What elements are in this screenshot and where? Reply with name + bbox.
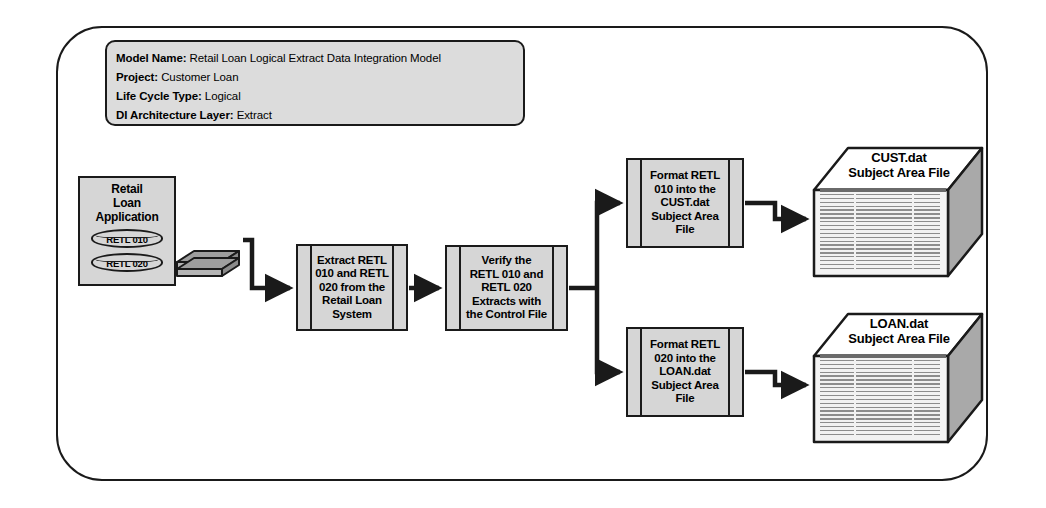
process-verify-extracts-with-control-file: Verify the RETL 010 and RETL 020 Extract… [445,245,568,331]
datastore-retl-020-label: RETL 020 [106,258,148,269]
source-system-retail-loan-application: Retail Loan Application RETL 010 RETL 02… [78,176,176,286]
process-extract-retl-from-retail-loan-system: Extract RETL 010 and RETL 020 from the R… [296,244,408,331]
process-format-loan-line-5: File [650,392,720,406]
info-label-life-cycle-type: Life Cycle Type: [116,90,202,102]
process-format-loan-label: Format RETL 020 into the LOAN.dat Subjec… [635,338,735,406]
process-extract-line-1: Extract RETL [315,254,389,268]
process-format-loan-line-2: 020 into the [650,352,720,366]
process-verify-line-2: RETL 010 and [466,268,547,282]
info-row-model-name: Model Name: Retail Loan Logical Extract … [116,49,523,68]
process-format-cust-line-2: 010 into the [650,183,720,197]
info-value-model-name: Retail Loan Logical Extract Data Integra… [190,52,441,64]
info-label-project: Project: [116,71,158,83]
process-format-cust-label: Format RETL 010 into the CUST.dat Subjec… [635,169,735,237]
file-box-table-header [820,354,946,358]
file-box-table-header [820,188,946,192]
info-value-project: Customer Loan [161,71,238,83]
source-system-title: Retail Loan Application [95,182,158,224]
process-format-loan-line-3: LOAN.dat [650,365,720,379]
source-title-line-3: Application [95,210,158,224]
process-extract-label: Extract RETL 010 and RETL 020 from the R… [300,254,404,322]
process-format-cust-line-4: Subject Area [650,210,720,224]
process-verify-line-4: Extracts with [466,295,547,309]
datastore-retl-010-label: RETL 010 [106,234,148,245]
info-value-life-cycle-type: Logical [205,90,241,102]
info-row-di-architecture-layer: DI Architecture Layer: Extract [116,106,523,125]
datastore-retl-010: RETL 010 [91,229,163,248]
diagram-canvas: Model Name: Retail Loan Logical Extract … [0,0,1046,508]
process-format-loan-line-4: Subject Area [650,379,720,393]
datastore-retl-020: RETL 020 [91,253,163,272]
process-format-cust-line-3: CUST.dat [650,196,720,210]
file-box-table-rows [820,193,946,271]
source-datastore-list: RETL 010 RETL 020 [91,229,163,272]
process-format-cust-line-5: File [650,223,720,237]
process-format-loan-line-1: Format RETL [650,338,720,352]
process-format-retl-010-into-cust-dat: Format RETL 010 into the CUST.dat Subjec… [626,158,744,248]
output-file-loan-dat: LOAN.dat Subject Area File [812,312,984,444]
process-extract-line-2: 010 and RETL [315,267,389,281]
process-extract-line-3: 020 from the [315,281,389,295]
output-file-cust-dat: CUST.dat Subject Area File [812,146,984,278]
process-verify-line-5: the Control File [466,308,547,322]
process-verify-line-3: RETL 020 [466,281,547,295]
process-verify-line-1: Verify the [466,254,547,268]
process-format-retl-020-into-loan-dat: Format RETL 020 into the LOAN.dat Subjec… [626,327,744,417]
process-extract-line-5: System [315,308,389,322]
info-row-project: Project: Customer Loan [116,68,523,87]
model-info-panel: Model Name: Retail Loan Logical Extract … [105,40,525,126]
process-extract-line-4: Retail Loan [315,294,389,308]
info-label-model-name: Model Name: [116,52,186,64]
source-title-line-2: Loan [95,196,158,210]
process-format-cust-line-1: Format RETL [650,169,720,183]
file-box-table-rows [820,359,946,437]
info-value-di-architecture-layer: Extract [237,109,272,121]
process-verify-label: Verify the RETL 010 and RETL 020 Extract… [451,254,562,322]
source-title-line-1: Retail [95,182,158,196]
info-label-di-architecture-layer: DI Architecture Layer: [116,109,234,121]
stacked-disk-icon [176,228,250,280]
info-row-life-cycle-type: Life Cycle Type: Logical [116,87,523,106]
